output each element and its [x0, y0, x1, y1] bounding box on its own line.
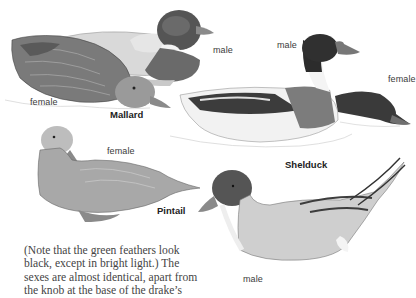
shelduck-male-label: male	[277, 40, 297, 50]
pintail-female-label: female	[107, 146, 135, 156]
pintail-male-illustration	[198, 158, 405, 260]
caption-line: sexes are almost identical, apart from	[24, 271, 224, 284]
mallard-female-label: female	[30, 97, 58, 107]
caption-text: (Note that the green feathers look black…	[24, 244, 224, 298]
pintail-species-name: Pintail	[157, 205, 186, 216]
shelduck-male-illustration	[170, 34, 360, 147]
pintail-male-label: male	[243, 274, 263, 284]
shelduck-species-name: Shelduck	[285, 159, 327, 170]
mallard-male-label: male	[213, 45, 233, 55]
caption-line: the knob at the base of the drake’s	[24, 284, 224, 297]
caption-line: black, except in bright light.) The	[24, 257, 224, 270]
shelduck-female-label: female	[388, 74, 416, 84]
shelduck-female-illustration	[335, 91, 411, 126]
mallard-species-name: Mallard	[110, 109, 143, 120]
caption-line: (Note that the green feathers look	[24, 244, 224, 257]
